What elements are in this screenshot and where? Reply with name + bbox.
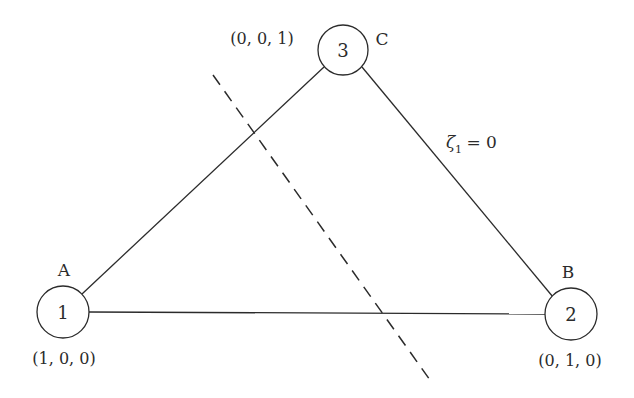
dashed-line — [213, 75, 430, 380]
node-2-coords: (0, 1, 0) — [538, 351, 601, 370]
node-3-letter: C — [375, 29, 388, 49]
node-2-number: 2 — [565, 304, 576, 325]
node-3-coords: (0, 0, 1) — [230, 29, 293, 48]
node-3-number: 3 — [337, 40, 348, 61]
edge-label: ζ 1 = 0 — [446, 132, 497, 156]
edge-1-2 — [89, 312, 545, 314]
equals-zero: = 0 — [461, 132, 497, 152]
node-3: 3 C (0, 0, 1) — [230, 25, 388, 75]
triangle-diagram: 1 A (1, 0, 0) 2 B (0, 1, 0) 3 C (0, 0, 1… — [0, 0, 634, 398]
node-1-letter: A — [57, 260, 71, 280]
edge-3-2 — [362, 67, 553, 297]
node-1-number: 1 — [57, 302, 68, 323]
node-2: 2 B (0, 1, 0) — [538, 262, 601, 370]
node-2-letter: B — [562, 262, 575, 282]
node-1: 1 A (1, 0, 0) — [32, 260, 95, 368]
node-1-coords: (1, 0, 0) — [32, 349, 95, 368]
